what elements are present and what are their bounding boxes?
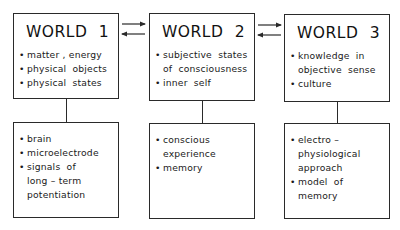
detail-item: •signals of (19, 160, 99, 174)
item-text: experience (163, 148, 216, 159)
detail-item: •conscious (155, 133, 216, 147)
world-2-detail-items: •conscious experience •memory (155, 133, 216, 175)
detail-item: •memory (155, 161, 216, 175)
item-text: memory (163, 162, 203, 173)
item-text: model of (298, 176, 343, 187)
detail-item-cont: potentiation (19, 188, 99, 202)
item-text: memory (298, 190, 338, 201)
item-text: physiological (298, 148, 360, 159)
detail-item: •electro – (290, 133, 360, 147)
bullet-icon: • (19, 146, 25, 160)
detail-item-cont: physiological (290, 147, 360, 161)
detail-item-cont: long – term (19, 174, 99, 188)
item-text: long – term (27, 175, 81, 186)
bullet-icon: • (290, 133, 296, 147)
detail-item-cont: approach (290, 161, 360, 175)
world-3-detail-items: •electro – physiological approach •model… (290, 133, 360, 203)
connector-world-2 (202, 101, 203, 123)
item-text: brain (27, 133, 52, 144)
bullet-icon: • (155, 161, 161, 175)
item-text: approach (298, 162, 343, 173)
bullet-icon: • (155, 133, 161, 147)
world-1-detail-items: •brain •microelectrode •signals of long … (19, 132, 99, 202)
connector-world-3 (337, 102, 338, 123)
item-text: potentiation (27, 189, 85, 200)
world-1-detail-box: •brain •microelectrode •signals of long … (13, 122, 119, 218)
detail-item-cont: experience (155, 147, 216, 161)
detail-item: •microelectrode (19, 146, 99, 160)
detail-item: •brain (19, 132, 99, 146)
item-text: conscious (163, 134, 210, 145)
world-3-detail-box: •electro – physiological approach •model… (284, 123, 390, 219)
detail-item-cont: memory (290, 189, 360, 203)
detail-item: •model of (290, 175, 360, 189)
bullet-icon: • (19, 160, 25, 174)
connector-world-1 (66, 99, 67, 122)
bullet-icon: • (290, 175, 296, 189)
item-text: electro – (298, 134, 339, 145)
item-text: microelectrode (27, 147, 99, 158)
bullet-icon: • (19, 132, 25, 146)
item-text: signals of (27, 161, 76, 172)
world-2-detail-box: •conscious experience •memory (149, 123, 255, 219)
